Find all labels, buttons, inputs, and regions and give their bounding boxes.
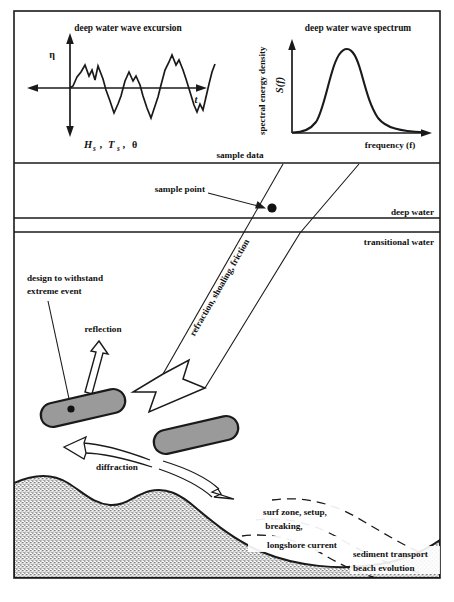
- sediment-transport-line2: beach evolution: [353, 563, 415, 573]
- sediment-transport-label-group: sediment transport beach evolution: [350, 546, 442, 574]
- sample-data-label: sample data: [216, 150, 264, 160]
- sample-point-label: sample point: [155, 184, 206, 194]
- param-comma-1: ,: [99, 139, 103, 150]
- sample-point-marker: [267, 203, 276, 212]
- reflection-label: reflection: [84, 324, 121, 334]
- spectrum-y-axis-label: spectral energy density: [257, 46, 267, 135]
- surf-zone-label-line1: surf zone, setup,: [263, 507, 327, 517]
- param-H: H: [83, 139, 93, 150]
- spectrum-x-axis-label: frequency (f): [365, 140, 416, 150]
- param-T: T: [108, 139, 115, 150]
- spectrum-title: deep water wave spectrum: [305, 23, 412, 33]
- spectrum-y-axis-symbol: S(f): [274, 77, 286, 93]
- design-target-marker-dot: [67, 405, 74, 412]
- surf-zone-label-group: surf zone, setup, breaking,: [248, 505, 342, 532]
- design-label-line1: design to withstand: [27, 273, 103, 283]
- longshore-current-label: longshore current: [267, 540, 338, 550]
- diagram-canvas: deep water wave excursion η t H s , T s …: [0, 0, 454, 602]
- param-H-sub: s: [92, 145, 96, 153]
- excursion-y-axis-label: η: [49, 49, 55, 60]
- surf-zone-label-line2: breaking,: [265, 521, 302, 531]
- coastal-process-diagram: deep water wave excursion η t H s , T s …: [0, 0, 454, 602]
- design-label-line2: extreme event: [27, 286, 83, 296]
- param-theta: θ: [132, 139, 137, 150]
- diffraction-label: diffraction: [96, 462, 138, 472]
- deep-water-label: deep water: [391, 207, 434, 217]
- longshore-current-label-group: longshore current: [248, 536, 356, 552]
- param-T-sub: s: [116, 145, 120, 153]
- transitional-water-label: transitional water: [364, 237, 434, 247]
- sediment-transport-line1: sediment transport: [353, 549, 429, 559]
- excursion-title: deep water wave excursion: [74, 23, 182, 33]
- param-comma-2: ,: [122, 139, 126, 150]
